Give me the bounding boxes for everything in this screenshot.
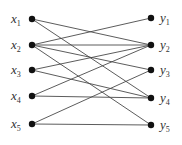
label-y2: y2 <box>158 37 170 54</box>
node-x1 <box>29 16 35 22</box>
node-y2 <box>148 42 154 48</box>
node-y1 <box>148 15 154 21</box>
label-x4: x4 <box>10 88 21 105</box>
label-x3: x3 <box>10 62 21 79</box>
label-y3: y3 <box>158 62 170 79</box>
label-x5: x5 <box>10 116 21 133</box>
label-x2: x2 <box>10 37 21 54</box>
node-y4 <box>148 95 154 101</box>
bipartite-graph: x1x2x3x4x5y1y2y3y4y5 <box>0 0 182 145</box>
edge-x3-y4 <box>32 70 151 98</box>
node-x3 <box>29 67 35 73</box>
edge-x4-y2 <box>32 45 151 96</box>
node-y5 <box>148 122 154 128</box>
edge-x5-y3 <box>32 70 151 124</box>
label-x1: x1 <box>10 11 21 28</box>
edge-x5-y5 <box>32 124 151 125</box>
label-y4: y4 <box>158 90 170 107</box>
node-x4 <box>29 93 35 99</box>
node-x2 <box>29 42 35 48</box>
edges <box>32 18 151 125</box>
node-x5 <box>29 121 35 127</box>
node-y3 <box>148 67 154 73</box>
label-y5: y5 <box>158 117 170 134</box>
label-y1: y1 <box>158 10 170 27</box>
edge-x2-y5 <box>32 45 151 125</box>
edge-x1-y4 <box>32 19 151 98</box>
